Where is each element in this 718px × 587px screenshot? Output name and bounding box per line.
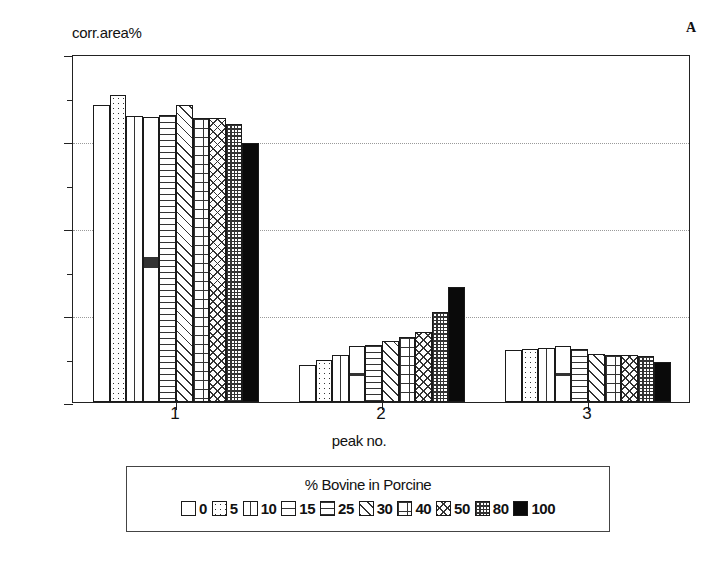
legend-title: % Bovine in Porcine: [127, 476, 609, 493]
legend-swatch-horiz1-icon: [281, 501, 296, 516]
legend-item-10[interactable]: 10: [243, 500, 277, 517]
legend-swatch-xhatch-icon: [436, 501, 451, 516]
legend-item-40[interactable]: 40: [397, 500, 431, 517]
bar-group: [93, 56, 259, 402]
bar-peak2-series80: [432, 312, 449, 402]
plot-area: [72, 55, 690, 403]
bar-peak1-series15: [143, 117, 160, 402]
legend-label-50: 50: [454, 500, 470, 517]
bar-peak3-series5: [522, 349, 539, 402]
x-axis-tick-label: 2: [376, 404, 385, 424]
y-axis-minor-tick: [67, 361, 73, 362]
bar-peak3-series15: [555, 346, 572, 402]
legend-item-25[interactable]: 25: [320, 500, 354, 517]
bar-peak2-series15: [349, 346, 366, 402]
bar-peak1-series0: [93, 105, 110, 402]
bar-peak1-series5: [110, 95, 127, 402]
legend-label-40: 40: [415, 500, 431, 517]
bar-peak2-series25: [365, 345, 382, 402]
bar-peak1-series40: [193, 118, 210, 402]
x-axis-title: peak no.: [0, 432, 718, 449]
legend: % Bovine in Porcine 0510152530405080100: [126, 466, 610, 532]
legend-item-80[interactable]: 80: [475, 500, 509, 517]
y-axis-minor-tick: [67, 187, 73, 188]
bar-peak2-series40: [399, 337, 416, 402]
bar-peak2-series50: [415, 332, 432, 402]
bar-peak2-series30: [382, 341, 399, 402]
legend-swatch-empty-icon: [181, 501, 196, 516]
y-axis-tick: [64, 317, 73, 318]
y-axis-tick: [64, 56, 73, 57]
y-axis-tick: [64, 230, 73, 231]
panel-letter-label: A: [686, 20, 696, 36]
y-axis-minor-tick: [67, 274, 73, 275]
bar-peak3-series80: [638, 356, 655, 402]
legend-swatch-dots-icon: [212, 501, 227, 516]
bar-peak3-series10: [538, 348, 555, 402]
bar-peak1-series10: [126, 116, 143, 402]
bar-peak3-series100: [654, 362, 671, 402]
legend-swatch-diag-icon: [359, 501, 374, 516]
legend-label-0: 0: [199, 500, 207, 517]
legend-item-0[interactable]: 0: [181, 500, 207, 517]
plot-inner: [73, 56, 689, 402]
legend-label-5: 5: [230, 500, 238, 517]
legend-swatch-horiz-icon: [320, 501, 335, 516]
legend-item-30[interactable]: 30: [359, 500, 393, 517]
legend-swatch-densegrid-icon: [475, 501, 490, 516]
bar-peak1-series50: [209, 118, 226, 402]
bar-group: [299, 56, 465, 402]
legend-label-15: 15: [299, 500, 315, 517]
bar-peak2-series100: [448, 287, 465, 402]
bar-peak3-series0: [505, 350, 522, 402]
legend-item-5[interactable]: 5: [212, 500, 238, 517]
bar-peak3-series50: [621, 355, 638, 402]
bar-peak1-series25: [159, 115, 176, 402]
bar-peak1-series80: [226, 124, 243, 402]
legend-swatch-vert2-icon: [243, 501, 258, 516]
y-axis-tick: [64, 404, 73, 405]
bar-peak3-series40: [605, 355, 622, 402]
legend-item-100[interactable]: 100: [513, 500, 555, 517]
legend-label-30: 30: [377, 500, 393, 517]
bar-peak1-series30: [176, 105, 193, 402]
x-axis-tick-label: 3: [582, 404, 591, 424]
y-axis-tick: [64, 143, 73, 144]
legend-label-25: 25: [338, 500, 354, 517]
legend-swatch-grid-icon: [397, 501, 412, 516]
bar-peak2-series0: [299, 365, 316, 402]
legend-swatch-solid-icon: [513, 501, 528, 516]
bar-chart-figure: corr.area% A peak no. % Bovine in Porcin…: [0, 0, 718, 587]
y-axis-minor-tick: [67, 100, 73, 101]
bar-peak2-series10: [332, 355, 349, 402]
bar-peak2-series5: [316, 360, 333, 402]
legend-item-15[interactable]: 15: [281, 500, 315, 517]
bar-peak3-series25: [571, 349, 588, 402]
legend-item-50[interactable]: 50: [436, 500, 470, 517]
x-axis-tick-label: 1: [170, 404, 179, 424]
legend-label-80: 80: [493, 500, 509, 517]
y-axis-title: corr.area%: [72, 24, 142, 41]
bar-peak1-series100: [242, 143, 259, 402]
legend-label-10: 10: [261, 500, 277, 517]
legend-items: 0510152530405080100: [127, 500, 609, 517]
bar-group: [505, 56, 671, 402]
legend-label-100: 100: [531, 500, 555, 517]
bar-peak3-series30: [588, 354, 605, 402]
